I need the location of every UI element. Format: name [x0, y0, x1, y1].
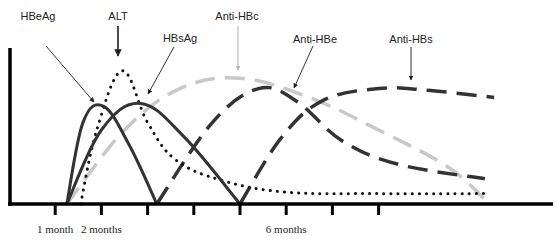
- series-line-hbeag: [67, 105, 157, 204]
- annotation-label-alt: ALT: [108, 10, 128, 22]
- annotation-label-anti-hbc: Anti-HBc: [215, 10, 259, 22]
- series-line-anti-hbe: [157, 87, 485, 204]
- annotation-label-hbeag: HBeAg: [21, 10, 56, 22]
- annotation-arrow-anti-hbe: [294, 46, 313, 88]
- x-tick-label: 6 months: [266, 223, 307, 235]
- annotation-label-anti-hbe: Anti-HBe: [293, 33, 337, 45]
- annotation-label-hbsag: HBsAg: [163, 32, 197, 44]
- annotation-arrow-hbsag: [148, 47, 174, 94]
- x-tick-label: 1 month: [37, 223, 74, 235]
- hbv-serology-chart: 1 month2 months6 months HBeAg ALT HBsAg …: [0, 0, 557, 244]
- series-layer: [67, 71, 494, 204]
- x-tick-label: 2 months: [81, 223, 122, 235]
- series-line-anti-hbs: [240, 88, 494, 204]
- annotation-label-anti-hbs: Anti-HBs: [389, 33, 433, 45]
- x-ticks: 1 month2 months6 months: [37, 204, 379, 235]
- annotation-arrow-hbeag: [46, 46, 94, 102]
